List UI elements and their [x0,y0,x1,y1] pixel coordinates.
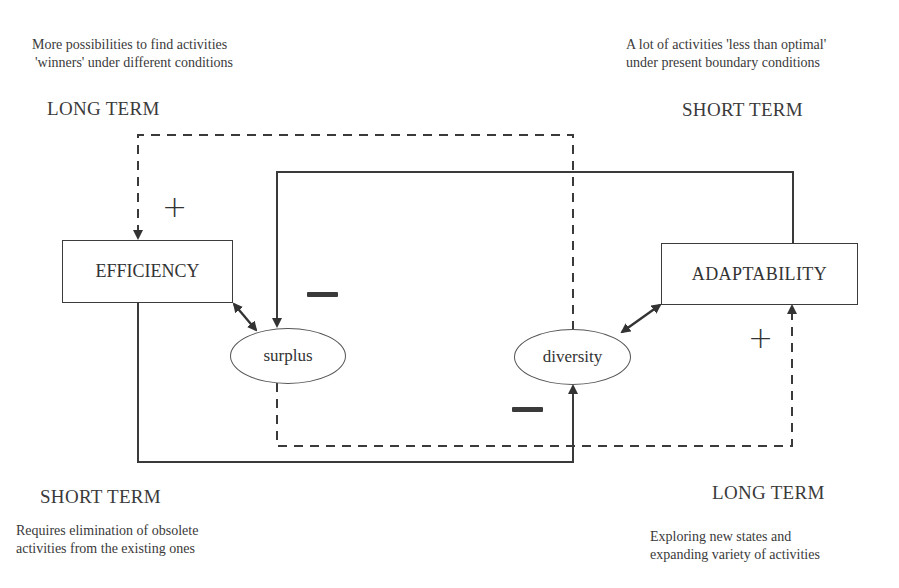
diagram-canvas: More possibilities to find activities 'w… [0,0,899,588]
term-label-top-left: LONG TERM [47,98,160,120]
node-surplus: surplus [230,328,346,384]
node-adaptability: ADAPTABILITY [661,243,858,305]
annotation-top-right-line2: under present boundary conditions [626,54,826,72]
annotation-bottom-right-line1: Exploring new states and [650,528,820,546]
sign-efficiency-plus: + [162,192,187,222]
annotation-bottom-left: Requires elimination of obsolete activit… [16,522,198,558]
edge-efficiency-surplus [234,304,256,330]
annotation-top-right: A lot of activities 'less than optimal' … [626,36,826,72]
node-efficiency: EFFICIENCY [62,240,233,303]
term-label-bottom-left: SHORT TERM [40,486,161,508]
annotation-bottom-right: Exploring new states and expanding varie… [650,528,820,564]
node-surplus-label: surplus [263,346,312,366]
node-efficiency-label: EFFICIENCY [95,261,199,282]
annotation-top-left-line2: 'winners' under different conditions [32,54,233,72]
node-diversity-label: diversity [543,347,603,367]
annotation-bottom-left-line2: activities from the existing ones [16,540,198,558]
annotation-top-right-line1: A lot of activities 'less than optimal' [626,36,826,54]
node-adaptability-label: ADAPTABILITY [692,264,827,285]
node-diversity: diversity [514,329,631,385]
sign-diversity-minus [512,407,543,412]
annotation-top-left-line1: More possibilities to find activities [32,36,233,54]
sign-surplus-minus [307,292,338,297]
edge-efficiency-to-diversity [138,302,573,462]
sign-adaptability-plus: + [748,323,773,353]
term-label-bottom-right: LONG TERM [712,482,825,504]
annotation-bottom-left-line1: Requires elimination of obsolete [16,522,198,540]
annotation-bottom-right-line2: expanding variety of activities [650,546,820,564]
term-label-top-right: SHORT TERM [682,99,803,121]
edge-adaptability-diversity [622,305,660,332]
annotation-top-left: More possibilities to find activities 'w… [32,36,233,72]
